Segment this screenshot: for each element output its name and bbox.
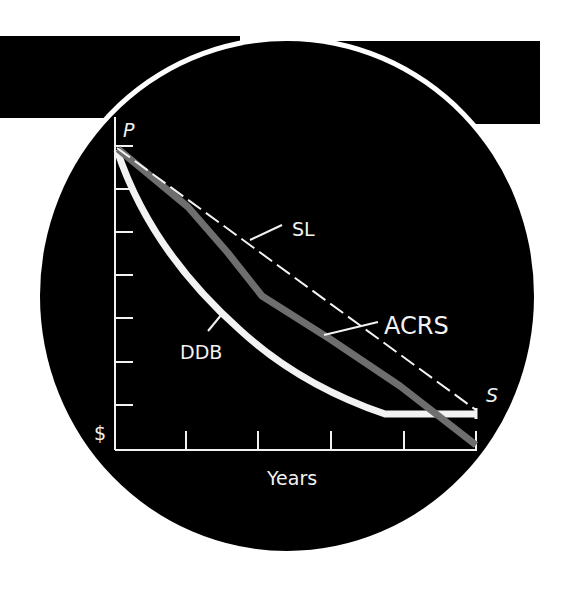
- depreciation-figure: P S $ Years SL ACRS DDB: [0, 0, 572, 590]
- point-s-label: S: [486, 384, 498, 406]
- y-axis-label: $: [94, 422, 106, 444]
- ddb-label: DDB: [180, 341, 222, 363]
- sl-label: SL: [292, 218, 315, 240]
- acrs-label: ACRS: [384, 312, 449, 340]
- point-p-label: P: [123, 119, 135, 141]
- x-axis-label: Years: [266, 467, 317, 489]
